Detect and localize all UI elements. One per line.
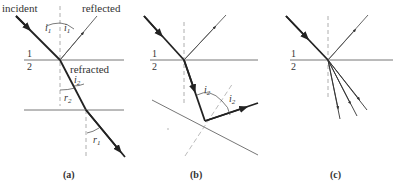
incident-label: incident xyxy=(2,2,37,14)
refracted-arrow-3-icon xyxy=(328,60,359,99)
angle-r2-arc xyxy=(60,88,75,90)
medium-2-label: 2 xyxy=(27,61,32,72)
angle-i2-label: i2 xyxy=(74,74,81,87)
reflected-arrow-icon xyxy=(184,27,215,60)
medium-1-label: 1 xyxy=(291,48,296,59)
panel-c: 1 2 (c) xyxy=(286,15,393,181)
incident-arrow-icon xyxy=(144,16,160,34)
medium-1-label: 1 xyxy=(152,48,157,59)
panel-b-caption: (b) xyxy=(190,169,202,181)
angle-r2-label: r2 xyxy=(64,92,72,105)
panel-a: incident reflected 1 2 i1 i1 refracted i… xyxy=(2,2,125,181)
angle-i1-arc xyxy=(46,23,60,26)
panel-b: 1 2 i2 i2 (b) xyxy=(144,15,258,181)
angle-i1-label: i1 xyxy=(45,22,51,35)
incident-arrow-icon xyxy=(16,16,28,28)
medium-2-label: 2 xyxy=(291,61,296,72)
optics-diagram: incident reflected 1 2 i1 i1 refracted i… xyxy=(0,0,395,185)
refracted-arrow-2-icon xyxy=(328,60,350,103)
refracted-arrow-1-icon xyxy=(328,60,338,108)
angle-r1-label: r1 xyxy=(93,134,100,147)
angle-i2-label-b: i2 xyxy=(229,93,236,106)
reflected-label: reflected xyxy=(82,2,121,14)
angle-r1-arc xyxy=(87,128,99,133)
incident-arrow-icon xyxy=(286,16,306,37)
angle-i2-label-a: i2 xyxy=(204,84,211,97)
internal-reflected-arrow-icon xyxy=(205,108,244,121)
angle-i1-reflected-label: i1 xyxy=(64,22,70,35)
reflected-arrow-icon xyxy=(60,33,83,60)
medium-1-label: 1 xyxy=(27,48,32,59)
exiting-arrow-icon xyxy=(86,110,119,150)
panel-c-caption: (c) xyxy=(330,169,341,181)
dot-mark xyxy=(167,128,168,129)
medium-2-label: 2 xyxy=(152,61,157,72)
refracted-arrow-icon xyxy=(184,60,194,89)
reflected-arrow-icon xyxy=(328,30,355,60)
panel-a-caption: (a) xyxy=(63,169,75,181)
